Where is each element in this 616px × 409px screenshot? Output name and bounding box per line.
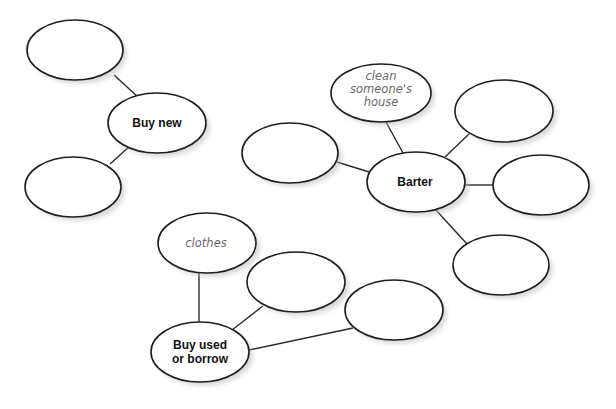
bubble-barter-center[interactable]: Barter <box>367 152 469 216</box>
connector-buy-used-to-right <box>249 328 353 350</box>
cluster-buy-used-or-borrow: clothes Buy used or borrow <box>151 213 447 386</box>
bubble-barter-clean-house[interactable]: clean someone's house <box>331 64 435 126</box>
bubble-buy-new-center[interactable]: Buy new <box>108 93 210 157</box>
connector-barter-to-top-right <box>445 134 469 157</box>
label-barter: Barter <box>397 175 433 189</box>
connector-barter-to-left <box>337 162 369 172</box>
bubble-barter-top-right[interactable] <box>455 80 557 146</box>
mind-map-canvas: Buy new clean someone's house <box>0 0 616 409</box>
connector-buy-new-to-bottom-left <box>110 146 130 164</box>
bubble-barter-right[interactable] <box>493 155 593 219</box>
label-clothes: clothes <box>185 236 226 250</box>
connector-barter-to-bottom-right <box>435 209 467 244</box>
label-buy-used-line1: Buy used <box>173 338 227 352</box>
bubble-buy-new-top-left[interactable] <box>27 20 127 84</box>
label-clean-line2: someone's <box>350 82 412 96</box>
label-clean-line3: house <box>364 95 399 109</box>
label-buy-new: Buy new <box>132 116 182 130</box>
bubble-buy-used-right[interactable] <box>345 280 447 344</box>
bubble-barter-bottom-right[interactable] <box>453 235 553 299</box>
bubble-buy-used-center[interactable]: Buy used or borrow <box>151 322 253 386</box>
connector-barter-to-clean-house <box>386 122 403 153</box>
connector-buy-new-to-top-left <box>114 75 138 97</box>
connector-buy-used-to-middle <box>232 306 263 330</box>
bubble-buy-used-clothes[interactable]: clothes <box>158 213 260 277</box>
cluster-buy-new: Buy new <box>25 20 210 221</box>
mind-map-svg: Buy new clean someone's house <box>0 0 616 409</box>
bubble-barter-left[interactable] <box>242 123 342 187</box>
label-buy-used-line2: or borrow <box>172 352 229 366</box>
label-clean-line1: clean <box>366 69 397 83</box>
bubble-buy-new-bottom-left[interactable] <box>25 157 125 221</box>
